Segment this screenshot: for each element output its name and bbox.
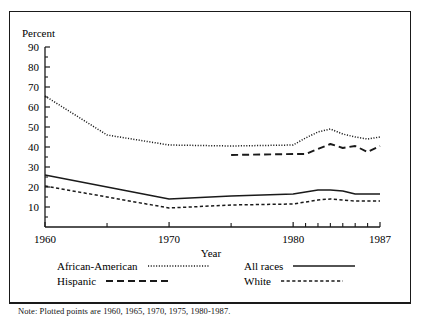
legend-item-sample: [281, 276, 343, 286]
legend-item-label: All races: [244, 260, 283, 272]
y-axis-tick-label: 20: [13, 182, 39, 193]
legend-line-sample: [148, 263, 210, 269]
y-axis-tick-label: 30: [13, 162, 39, 173]
legend-item-sample: [293, 261, 355, 271]
y-axis-tick-label: 90: [13, 42, 39, 53]
x-axis-tick-label: 1970: [158, 234, 180, 245]
footnote: Note: Plotted points are 1960, 1965, 197…: [18, 306, 230, 316]
x-axis-tick-label: 1987: [369, 234, 391, 245]
figure: Percent 908070605040302010 1960197019801…: [0, 0, 422, 327]
legend-item: All races: [244, 260, 355, 272]
note-divider: [9, 303, 411, 304]
legend-item: African-American: [57, 260, 244, 272]
plot-area: [45, 47, 380, 227]
legend-item: Hispanic: [57, 275, 244, 287]
y-axis-title: Percent: [22, 27, 55, 39]
legend-row: African-AmericanAll races: [57, 258, 397, 273]
legend-row: HispanicWhite: [57, 273, 397, 288]
y-axis-tick-label: 80: [13, 62, 39, 73]
y-axis-tick-label: 10: [13, 202, 39, 213]
legend-item: White: [244, 275, 343, 287]
series-line: [231, 144, 380, 155]
y-axis-tick-label: 60: [13, 102, 39, 113]
x-axis-tick-label: 1960: [34, 234, 56, 245]
legend-line-sample: [293, 263, 355, 269]
legend-line-sample: [106, 278, 168, 284]
y-axis-tick-label: 50: [13, 122, 39, 133]
x-axis-tick-label: 1980: [282, 234, 304, 245]
legend-line-sample: [281, 278, 343, 284]
plot-svg: [45, 47, 380, 227]
series-line: [45, 96, 380, 146]
legend: African-AmericanAll racesHispanicWhite: [57, 258, 397, 288]
legend-item-sample: [106, 276, 168, 286]
y-axis-tick-label: 70: [13, 82, 39, 93]
legend-item-label: African-American: [57, 260, 138, 272]
legend-item-label: Hispanic: [57, 275, 96, 287]
y-axis-tick-label: 40: [13, 142, 39, 153]
legend-item-label: White: [244, 275, 271, 287]
legend-item-sample: [148, 261, 210, 271]
